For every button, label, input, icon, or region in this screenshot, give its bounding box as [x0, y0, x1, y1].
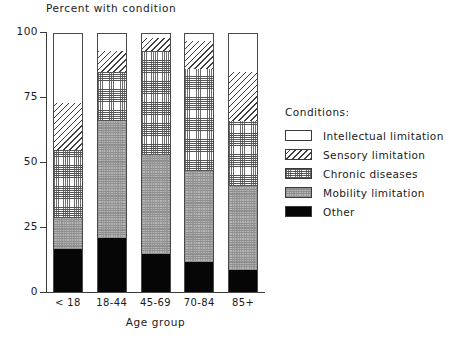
gray-stipple-swatch — [285, 187, 312, 198]
y-tick-label: 0 — [8, 285, 38, 297]
bar-segment-sensory-limitation — [97, 51, 127, 72]
bar-segment-intellectual-limitation — [184, 33, 214, 41]
bar-segment-other — [141, 254, 171, 293]
bar-segment-intellectual-limitation — [228, 33, 258, 72]
bar-segment-other — [53, 249, 83, 293]
bar-segment-mobility-limitation — [228, 186, 258, 269]
chart-legend: Conditions: Intellectual limitationSenso… — [285, 106, 444, 221]
y-tick-label: 50 — [8, 155, 38, 167]
y-tick-label: 100 — [8, 25, 38, 37]
crosshatch-grid-swatch — [285, 168, 312, 179]
legend-item: Intellectual limitation — [285, 126, 444, 145]
y-tick-label: 75 — [8, 90, 38, 102]
bar-segment-intellectual-limitation — [97, 33, 127, 51]
legend-item-label: Mobility limitation — [323, 187, 425, 199]
bar-segment-chronic-diseases — [97, 72, 127, 121]
bar-segment-chronic-diseases — [184, 69, 214, 170]
bar-segment-mobility-limitation — [141, 155, 171, 254]
stacked-bar-chart: Percent with condition 0255075100 < 1818… — [0, 0, 453, 346]
bar-70-84 — [184, 33, 214, 293]
legend-rows: Intellectual limitationSensory limitatio… — [285, 126, 444, 221]
legend-item: Chronic diseases — [285, 164, 444, 183]
bar-segment-intellectual-limitation — [141, 33, 171, 38]
bar-18-44 — [97, 33, 127, 293]
diagonal-hatch-swatch — [285, 149, 312, 160]
bars-layer — [46, 32, 265, 293]
bar-85+ — [228, 33, 258, 293]
legend-item-label: Chronic diseases — [323, 168, 418, 180]
bar--18 — [53, 33, 83, 293]
bar-segment-sensory-limitation — [184, 41, 214, 70]
chart-title: Percent with condition — [46, 2, 176, 14]
x-tick-label: 85+ — [211, 297, 275, 308]
legend-item-label: Intellectual limitation — [323, 130, 444, 142]
solid-black-swatch — [285, 206, 312, 217]
bar-segment-chronic-diseases — [53, 150, 83, 218]
legend-title: Conditions: — [285, 106, 444, 118]
legend-item: Sensory limitation — [285, 145, 444, 164]
legend-item: Other — [285, 202, 444, 221]
bar-segment-other — [97, 238, 127, 293]
bar-segment-sensory-limitation — [228, 72, 258, 121]
bar-segment-intellectual-limitation — [53, 33, 83, 103]
legend-item-label: Other — [323, 206, 355, 218]
legend-item: Mobility limitation — [285, 183, 444, 202]
bar-45-69 — [141, 33, 171, 293]
bar-segment-sensory-limitation — [53, 103, 83, 150]
bar-segment-other — [184, 262, 214, 293]
empty-white-swatch — [285, 130, 312, 141]
bar-segment-other — [228, 270, 258, 293]
bar-segment-mobility-limitation — [184, 171, 214, 262]
bar-segment-sensory-limitation — [141, 38, 171, 51]
bar-segment-mobility-limitation — [53, 218, 83, 249]
y-tick-label: 25 — [8, 220, 38, 232]
x-axis-title: Age group — [46, 316, 265, 328]
bar-segment-chronic-diseases — [228, 121, 258, 186]
legend-item-label: Sensory limitation — [323, 149, 425, 161]
bar-segment-mobility-limitation — [97, 121, 127, 238]
bar-segment-chronic-diseases — [141, 51, 171, 155]
